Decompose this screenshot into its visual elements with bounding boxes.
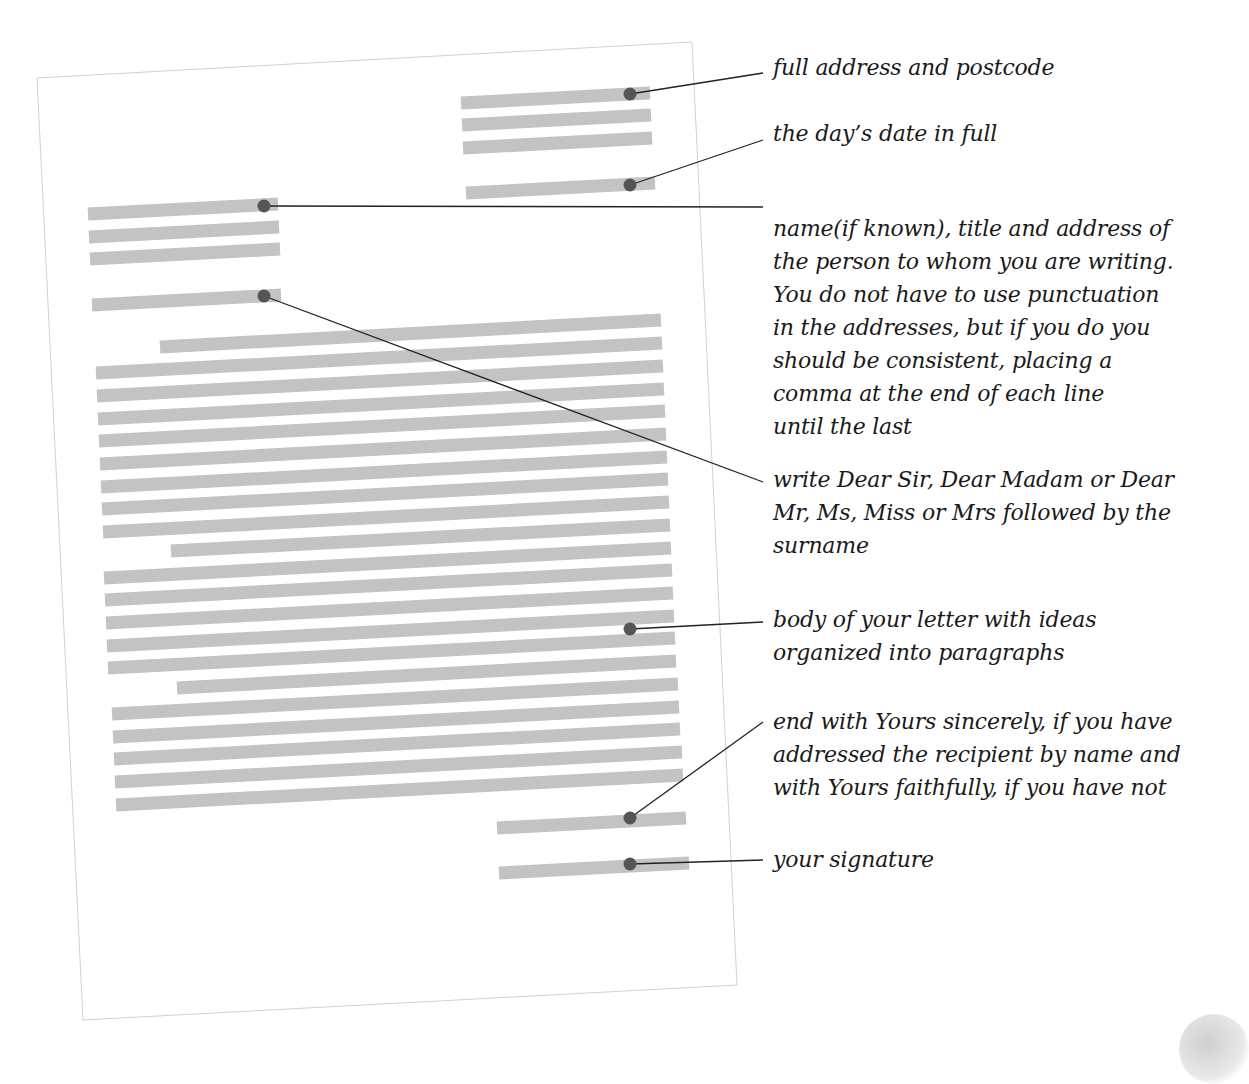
annotation-body: body of your letter with ideasorganized … [773,603,1096,669]
annotation-line: the day’s date in full [773,117,997,150]
annotation-line: full address and postcode [773,51,1054,84]
marker-dot-salutation [258,290,271,303]
annotation-line: body of your letter with ideas [773,603,1096,636]
annotation-line: until the last [773,410,1174,443]
annotation-signature: your signature [773,843,934,876]
annotation-line: comma at the end of each line [773,377,1174,410]
annotation-line: should be consistent, placing a [773,344,1174,377]
marker-dot-recipient-address [258,200,271,213]
marker-dot-sender-address [624,88,637,101]
annotation-line: your signature [773,843,934,876]
annotation-line: organized into paragraphs [773,636,1096,669]
annotation-salutation: write Dear Sir, Dear Madam or DearMr, Ms… [773,463,1174,562]
annotation-line: end with Yours sincerely, if you have [773,705,1181,738]
annotation-line: surname [773,529,1174,562]
annotation-line: the person to whom you are writing. [773,245,1174,278]
annotation-line: Mr, Ms, Miss or Mrs followed by the [773,496,1174,529]
annotation-line: addressed the recipient by name and [773,738,1181,771]
annotation-line: name(if known), title and address of [773,212,1174,245]
page-curl-decoration [1179,1014,1249,1084]
annotation-sender-address: full address and postcode [773,51,1054,84]
annotation-date: the day’s date in full [773,117,997,150]
annotation-line: You do not have to use punctuation [773,278,1174,311]
annotation-recipient-address: name(if known), title and address ofthe … [773,212,1174,443]
annotation-line: in the addresses, but if you do you [773,311,1174,344]
marker-dot-signature [624,858,637,871]
marker-dot-body [624,623,637,636]
annotation-closing: end with Yours sincerely, if you haveadd… [773,705,1181,804]
annotation-line: with Yours faithfully, if you have not [773,771,1181,804]
marker-dot-closing [624,812,637,825]
annotation-line: write Dear Sir, Dear Madam or Dear [773,463,1174,496]
marker-dot-date [624,179,637,192]
